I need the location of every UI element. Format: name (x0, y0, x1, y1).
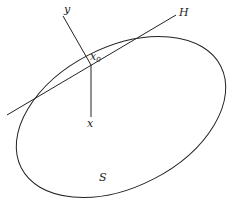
point-x0-label: x0 (90, 50, 101, 64)
surface-label: S (99, 171, 107, 184)
point-x0-subscript: 0 (96, 56, 101, 64)
x-axis-label: x (87, 117, 94, 130)
diagram-canvas: y x x0 H S (0, 0, 233, 203)
y-axis-label: y (63, 3, 71, 16)
hyperplane-label: H (178, 6, 189, 19)
surface-ellipse (0, 4, 233, 203)
y-axis-line (63, 16, 91, 65)
